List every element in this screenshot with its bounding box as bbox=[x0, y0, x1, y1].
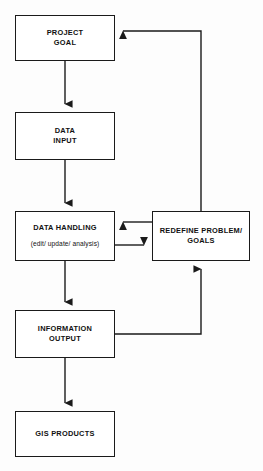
connector-redefine-to-project-goal-feedback bbox=[123, 31, 201, 211]
node-information-output: INFORMATION OUTPUT bbox=[15, 310, 115, 358]
node-gis-products: GIS PRODUCTS bbox=[15, 411, 115, 457]
node-data-handling: DATA HANDLING (edit/ update/ analysis) bbox=[15, 211, 115, 261]
node-data-input: DATA INPUT bbox=[15, 112, 115, 160]
flowchart-diagram: PROJECT GOAL DATA INPUT DATA HANDLING (e… bbox=[0, 0, 263, 471]
node-project-goal-label: PROJECT GOAL bbox=[47, 28, 84, 49]
node-gis-products-label: GIS PRODUCTS bbox=[35, 429, 94, 440]
node-data-handling-sublabel: (edit/ update/ analysis) bbox=[31, 239, 100, 249]
connector-information-output-to-redefine-feedback bbox=[115, 269, 201, 334]
node-information-output-label: INFORMATION OUTPUT bbox=[38, 324, 92, 345]
node-redefine-problem-goals: REDEFINE PROBLEM/ GOALS bbox=[152, 211, 250, 261]
node-redefine-problem-goals-label: REDEFINE PROBLEM/ GOALS bbox=[160, 226, 243, 247]
node-data-handling-label: DATA HANDLING bbox=[33, 223, 96, 234]
node-project-goal: PROJECT GOAL bbox=[15, 15, 115, 61]
node-data-input-label: DATA INPUT bbox=[53, 126, 76, 147]
